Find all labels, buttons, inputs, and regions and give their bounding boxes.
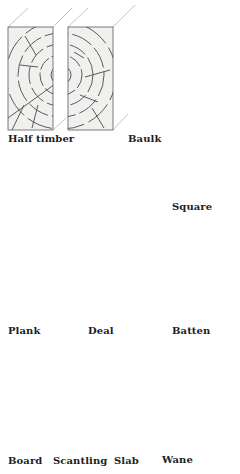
half-timber-illustration: [6, 5, 135, 130]
label-wane: Wane: [162, 454, 193, 466]
label-plank: Plank: [8, 325, 41, 337]
label-square: Square: [172, 201, 212, 213]
label-deal: Deal: [88, 325, 114, 337]
label-slab: Slab: [114, 455, 139, 467]
label-board: Board: [8, 455, 42, 467]
timber-sections-diagram: [0, 0, 240, 474]
label-scantling: Scantling: [53, 455, 107, 467]
label-batten: Batten: [172, 325, 210, 337]
label-half-timber: Half timber: [8, 133, 74, 145]
label-baulk: Baulk: [128, 133, 161, 145]
